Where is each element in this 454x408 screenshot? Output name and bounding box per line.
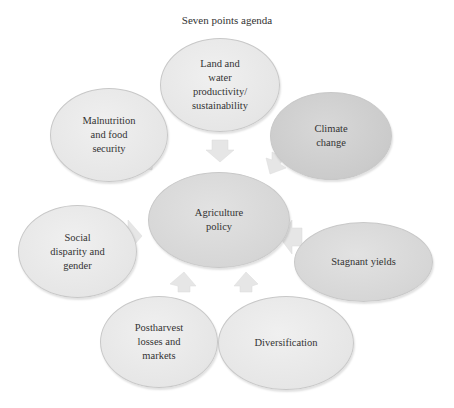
node-postharvest-line-3: markets xyxy=(129,349,189,363)
node-agriculture-policy: Agriculture policy xyxy=(148,172,290,268)
node-social-line-3: gender xyxy=(44,259,111,273)
node-land-water-line-1: Land and xyxy=(186,57,254,71)
node-climate: Climate change xyxy=(270,92,392,180)
node-land-water-line-2: water xyxy=(186,71,254,85)
node-postharvest-line-1: Postharvest xyxy=(129,321,189,335)
node-malnutrition-line-3: security xyxy=(76,142,141,156)
node-social-line-1: Social xyxy=(44,231,111,245)
node-diversification: Diversification xyxy=(218,296,354,390)
node-social: Social disparity and gender xyxy=(18,205,137,298)
node-diversification-line-1: Diversification xyxy=(249,336,324,350)
node-stagnant: Stagnant yields xyxy=(294,222,433,302)
node-postharvest: Postharvest losses and markets xyxy=(100,296,218,388)
node-land-water: Land and water productivity/ sustainabil… xyxy=(160,38,280,132)
node-land-water-line-3: productivity/ xyxy=(186,85,254,99)
center-line-2: policy xyxy=(189,220,249,234)
node-stagnant-line-1: Stagnant yields xyxy=(325,255,401,269)
node-social-line-2: disparity and xyxy=(44,245,111,259)
node-climate-line-2: change xyxy=(308,136,353,150)
node-postharvest-line-2: losses and xyxy=(129,335,189,349)
node-malnutrition-line-2: and food xyxy=(76,128,141,142)
center-line-1: Agriculture xyxy=(189,206,249,220)
node-malnutrition: Malnutrition and food security xyxy=(50,88,168,182)
node-climate-line-1: Climate xyxy=(308,122,353,136)
node-malnutrition-line-1: Malnutrition xyxy=(76,114,141,128)
node-land-water-line-4: sustainability xyxy=(186,99,254,113)
